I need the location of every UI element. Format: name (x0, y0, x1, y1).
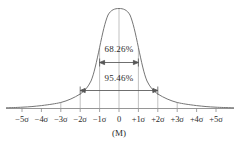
tick-label-plus-5-sigma: +5σ (209, 114, 222, 124)
tick-label-minus-1-sigma: −1σ (93, 114, 106, 124)
two-sigma-percent-label: 95.46% (105, 73, 134, 83)
tick-label-minus-4-sigma: −4σ (35, 114, 48, 124)
x-axis-unit-label: (M) (112, 128, 126, 138)
normal-distribution-figure: 68.26% 95.46% −5σ −4σ −3σ −2σ −1σ 0 +1σ … (0, 0, 240, 145)
axis-tick-marks (22, 109, 216, 113)
tick-label-plus-2-sigma: +2σ (151, 114, 164, 124)
vertical-gridlines (61, 9, 177, 109)
tick-label-plus-4-sigma: +4σ (190, 114, 203, 124)
tick-label-plus-3-sigma: +3σ (171, 114, 184, 124)
one-sigma-percent-label: 68.26% (105, 44, 134, 54)
tick-label-minus-3-sigma: −3σ (54, 114, 67, 124)
tick-label-zero: 0 (117, 114, 121, 124)
normal-distribution-curve (6, 9, 234, 108)
tick-label-minus-2-sigma: −2σ (74, 114, 87, 124)
tick-label-plus-1-sigma: +1σ (132, 114, 145, 124)
tick-label-minus-5-sigma: −5σ (15, 114, 28, 124)
